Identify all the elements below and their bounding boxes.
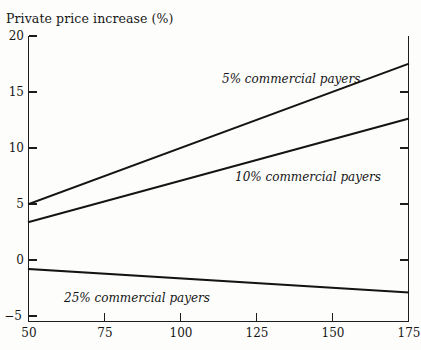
y-tick-label-0: 0: [0, 253, 24, 267]
series-label-5-percent: 5% commercial payers: [222, 72, 360, 86]
y-tick-label-5: 5: [0, 197, 24, 211]
chart-figure: Private price increase (%): [0, 0, 421, 350]
x-tick-label-50: 50: [9, 326, 49, 340]
x-tick-label-125: 125: [237, 326, 277, 340]
series-label-25-percent: 25% commercial payers: [64, 291, 210, 305]
y-tick-label-15: 15: [0, 85, 24, 99]
y-tick-label-20: 20: [0, 29, 24, 43]
y-tick-label-10: 10: [0, 141, 24, 155]
x-tick-label-150: 150: [313, 326, 353, 340]
series-label-10-percent: 10% commercial payers: [235, 170, 381, 184]
y-tick-marks: [29, 36, 38, 316]
y-tick-marks-right: [400, 92, 409, 260]
series-line-25-percent: [29, 269, 408, 293]
x-tick-label-75: 75: [85, 326, 125, 340]
x-tick-marks: [29, 313, 409, 322]
y-tick-label-minus-5: −5: [0, 309, 22, 323]
x-tick-label-175: 175: [389, 326, 421, 340]
x-tick-label-100: 100: [161, 326, 201, 340]
